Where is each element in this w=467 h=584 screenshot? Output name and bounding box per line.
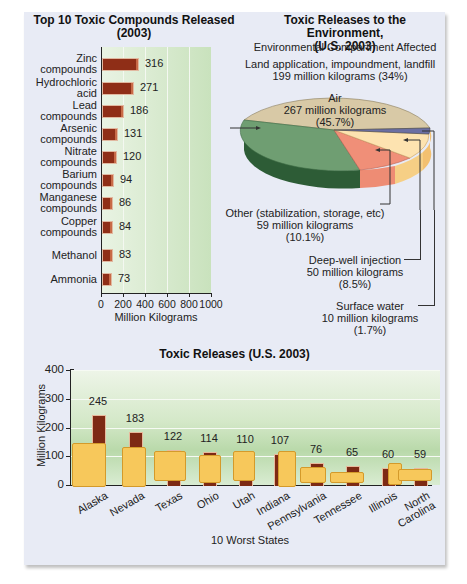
state-shape-icon xyxy=(72,443,106,487)
category-label: Coppercompounds xyxy=(26,216,97,238)
label-line: Other (stabilization, storage, etc) xyxy=(225,207,385,219)
label-line: (10.1%) xyxy=(225,231,385,243)
gridline xyxy=(70,428,440,429)
state-shape-icon xyxy=(278,451,296,487)
label-line: (1.7%) xyxy=(320,324,420,336)
bar-value-label: 59 xyxy=(400,448,440,460)
state-shape-icon xyxy=(398,469,432,481)
compound-bar xyxy=(102,105,124,118)
surface-leader-tick xyxy=(418,305,434,306)
bar-value-label: 271 xyxy=(140,81,158,93)
x-axis-title: 10 Worst States xyxy=(190,535,310,546)
bar-value-label: 120 xyxy=(123,150,141,162)
bar-value-label: 186 xyxy=(130,104,148,116)
air-slice-label: Air 267 million kilograms (45.7%) xyxy=(270,92,400,128)
compound-bar xyxy=(102,82,134,95)
bar-value-label: 83 xyxy=(119,248,131,260)
title-line-1: Toxic Releases to the Environment, xyxy=(245,14,445,40)
x-axis-title: Million Kilograms xyxy=(101,312,211,323)
bar-value-label: 76 xyxy=(296,443,336,455)
x-tick-mark xyxy=(167,293,168,297)
bar-value-label: 131 xyxy=(124,127,142,139)
category-label-line: acid xyxy=(26,88,97,99)
y-axis-line xyxy=(70,369,71,486)
label-line: Surface water xyxy=(320,300,420,312)
category-label: Arseniccompounds xyxy=(26,123,97,145)
surface-slice-label: Surface water 10 million kilograms (1.7%… xyxy=(320,300,420,336)
compounds-chart-title: Top 10 Toxic Compounds Released (2003) xyxy=(24,14,244,40)
y-tick-mark xyxy=(66,485,70,486)
category-label: Manganesecompounds xyxy=(26,192,97,214)
category-label: Bariumcompounds xyxy=(26,169,97,191)
label-line: Land application, impoundment, landfill xyxy=(240,58,440,70)
bar-value-label: 110 xyxy=(225,433,265,445)
y-tick-label: 400 xyxy=(36,364,64,375)
category-label: Zinccompounds xyxy=(26,53,97,75)
title-line-2: (2003) xyxy=(24,27,244,40)
x-axis-line xyxy=(101,293,211,294)
category-label-line: compounds xyxy=(26,157,97,168)
category-label-line: compounds xyxy=(26,227,97,238)
y-tick-label: 100 xyxy=(36,450,64,461)
compound-bar xyxy=(102,174,114,187)
x-tick-mark xyxy=(211,293,212,297)
y-tick-label: 200 xyxy=(36,422,64,433)
land-slice-label: Land application, impoundment, landfill … xyxy=(240,58,440,82)
label-line: 267 million kilograms xyxy=(270,104,400,116)
label-line: 59 million kilograms xyxy=(225,219,385,231)
state-shape-icon xyxy=(122,447,146,487)
x-tick-label: 1000 xyxy=(196,299,226,310)
category-label-line: compounds xyxy=(26,111,97,122)
state-shape-icon xyxy=(199,455,221,483)
land-leader-line xyxy=(230,90,244,128)
category-label: Ammonia xyxy=(26,274,97,285)
x-tick-mark xyxy=(189,293,190,297)
compound-bar xyxy=(102,197,113,210)
category-label: Leadcompounds xyxy=(26,100,97,122)
gridline xyxy=(189,47,190,293)
other-slice-label: Other (stabilization, storage, etc) 59 m… xyxy=(225,207,385,243)
y-tick-mark xyxy=(66,428,70,429)
y-tick-mark xyxy=(66,399,70,400)
state-shape-icon xyxy=(330,472,364,483)
label-line: 199 million kilograms (34%) xyxy=(240,70,440,82)
category-label: Methanol xyxy=(26,250,97,261)
x-tick-mark xyxy=(101,293,102,297)
label-line: (8.5%) xyxy=(300,278,410,290)
x-tick-mark xyxy=(123,293,124,297)
category-label-line: compounds xyxy=(26,64,97,75)
category-label: Hydrochloricacid xyxy=(26,77,97,99)
x-tick-mark xyxy=(145,293,146,297)
bar-value-label: 65 xyxy=(332,446,372,458)
state-shape-icon xyxy=(300,467,326,483)
compound-bar xyxy=(102,58,139,71)
compound-bar xyxy=(102,128,118,141)
states-chart-title: Toxic Releases (U.S. 2003) xyxy=(24,347,445,361)
category-label-line: compounds xyxy=(26,203,97,214)
bar-value-label: 107 xyxy=(260,434,300,446)
compound-bar xyxy=(102,273,112,286)
label-line: Air xyxy=(270,92,400,104)
compound-bar xyxy=(102,249,113,262)
compound-bar xyxy=(102,221,113,234)
state-shape-icon xyxy=(233,451,255,481)
category-label: Nitratecompounds xyxy=(26,146,97,168)
state-shape-icon xyxy=(154,451,186,481)
bar-value-label: 183 xyxy=(115,412,155,424)
category-label-line: Methanol xyxy=(26,250,97,261)
deepwell-leader-line-ext xyxy=(420,210,421,260)
bar-value-label: 84 xyxy=(119,220,131,232)
y-axis-top-tick xyxy=(70,369,74,370)
bar-value-label: 122 xyxy=(153,430,193,442)
bar-value-label: 245 xyxy=(78,395,118,407)
category-label-line: compounds xyxy=(26,180,97,191)
y-tick-label: 0 xyxy=(36,479,64,490)
gridline xyxy=(167,47,168,293)
gridline xyxy=(70,399,440,400)
label-line: Deep-well injection xyxy=(300,254,410,266)
surface-leader-line-ext xyxy=(434,210,435,306)
bar-value-label: 316 xyxy=(145,57,163,69)
bar-value-label: 73 xyxy=(118,272,130,284)
y-tick-label: 300 xyxy=(36,393,64,404)
y-tick-mark xyxy=(66,456,70,457)
